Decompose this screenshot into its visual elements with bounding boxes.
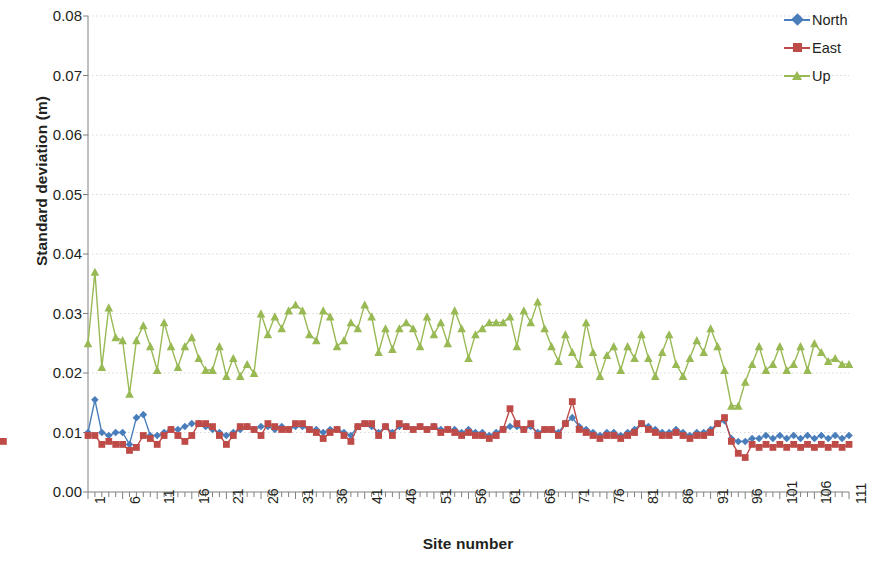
legend-marker-square-icon (784, 41, 810, 55)
x-tick-label: 71 (577, 488, 591, 504)
legend-marker-diamond-icon (784, 13, 810, 27)
x-tick-label: 66 (543, 488, 557, 504)
x-tick-label: 51 (439, 488, 453, 504)
legend-label: East (812, 41, 841, 56)
x-tick-label: 41 (370, 488, 384, 504)
x-tick-label: 76 (612, 488, 626, 504)
legend-glyph (792, 71, 802, 80)
x-tick-label: 91 (716, 488, 730, 504)
x-tick-label: 46 (404, 488, 418, 504)
legend-item-east[interactable]: East (784, 34, 862, 62)
x-tick-label: 81 (646, 488, 660, 504)
x-tick-label: 86 (681, 488, 695, 504)
x-tick-label: 26 (266, 488, 280, 504)
x-tick-label: 6 (128, 496, 142, 504)
legend-glyph (793, 43, 802, 52)
legend-label: North (812, 13, 847, 28)
x-tick-label: 61 (508, 488, 522, 504)
x-tick-label: 101 (785, 481, 799, 504)
x-tick-label: 21 (231, 488, 245, 504)
x-tick-label: 106 (819, 481, 833, 504)
x-tick-label: 56 (474, 488, 488, 504)
legend-marker-triangle-icon (784, 69, 810, 83)
x-tick-label: 36 (335, 488, 349, 504)
x-tick-label: 96 (750, 488, 764, 504)
legend-item-up[interactable]: Up (784, 62, 862, 90)
x-tick-label: 16 (197, 488, 211, 504)
chart-legend: NorthEastUp (784, 6, 862, 90)
x-tick-label: 31 (301, 488, 315, 504)
legend-item-north[interactable]: North (784, 6, 862, 34)
x-tick-label: 11 (162, 489, 176, 504)
x-tick-label: 1 (93, 496, 107, 504)
legend-label: Up (812, 69, 831, 84)
x-axis-title: Site number (88, 535, 848, 553)
x-tick-label: 111 (854, 483, 868, 504)
legend-glyph (791, 13, 804, 26)
